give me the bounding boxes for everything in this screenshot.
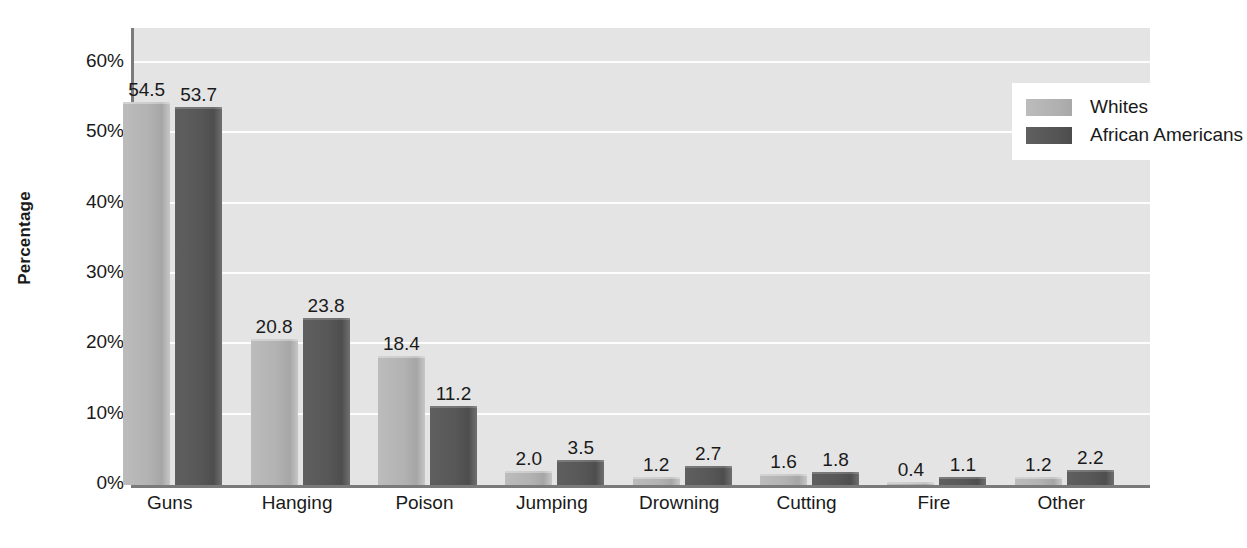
bar-value-label: 1.2: [643, 455, 669, 474]
plot-area: 54.553.720.823.818.411.22.03.51.22.71.61…: [131, 28, 1150, 485]
legend-label: Whites: [1090, 96, 1148, 118]
y-tick-label: 10%: [0, 402, 124, 424]
y-tick-label: 60%: [0, 50, 124, 72]
bar[interactable]: 20.8: [251, 339, 298, 485]
gridline: [134, 202, 1150, 204]
bar[interactable]: 54.5: [123, 102, 170, 485]
bar-value-label: 1.6: [770, 452, 796, 471]
bar-value-label: 1.2: [1025, 455, 1051, 474]
plot-inner: 54.553.720.823.818.411.22.03.51.22.71.61…: [134, 28, 1150, 485]
y-tick-label: 30%: [0, 261, 124, 283]
bar[interactable]: 18.4: [378, 356, 425, 485]
gridline: [134, 131, 1150, 133]
x-tick-label: Hanging: [262, 492, 333, 514]
y-tick-label: 40%: [0, 191, 124, 213]
bar-value-label: 3.5: [568, 438, 594, 457]
bar-value-label: 23.8: [308, 296, 345, 315]
y-tick-label: 0%: [0, 472, 124, 494]
legend-swatch-icon: [1026, 99, 1072, 116]
bar-value-label: 2.2: [1077, 448, 1103, 467]
legend-item[interactable]: African Americans: [1026, 122, 1247, 148]
bar[interactable]: 11.2: [430, 406, 477, 485]
y-axis-tick-labels: 0%10%20%30%40%50%60%: [0, 0, 124, 548]
bar[interactable]: 1.6: [760, 474, 807, 485]
chart-legend: WhitesAfrican Americans: [1012, 83, 1247, 160]
bar[interactable]: 1.2: [1015, 477, 1062, 485]
x-tick-label: Guns: [147, 492, 192, 514]
bar[interactable]: 2.2: [1067, 470, 1114, 485]
x-tick-label: Poison: [395, 492, 453, 514]
bar[interactable]: 53.7: [175, 107, 222, 485]
bar[interactable]: 3.5: [557, 460, 604, 485]
legend-label: African Americans: [1090, 124, 1243, 146]
x-tick-label: Cutting: [776, 492, 836, 514]
y-tick-label: 20%: [0, 331, 124, 353]
x-tick-label: Jumping: [516, 492, 588, 514]
y-tick-label: 50%: [0, 120, 124, 142]
bar[interactable]: 1.8: [812, 472, 859, 485]
bar[interactable]: 1.2: [633, 477, 680, 485]
bar[interactable]: 2.0: [505, 471, 552, 485]
bar[interactable]: 2.7: [685, 466, 732, 485]
gridline: [134, 61, 1150, 63]
x-axis-tick-labels: GunsHangingPoisonJumpingDrowningCuttingF…: [131, 492, 1150, 532]
bar[interactable]: 23.8: [303, 318, 350, 485]
bar-value-label: 1.1: [950, 455, 976, 474]
bar-value-label: 11.2: [436, 384, 472, 403]
bar-value-label: 2.7: [695, 444, 721, 463]
bar-value-label: 2.0: [516, 449, 542, 468]
bar-value-label: 20.8: [256, 317, 293, 336]
x-axis-line: [131, 485, 1150, 488]
bar-value-label: 0.4: [898, 460, 924, 479]
legend-item[interactable]: Whites: [1026, 94, 1247, 120]
bar-value-label: 1.8: [822, 450, 848, 469]
bar[interactable]: 1.1: [939, 477, 986, 485]
x-tick-label: Drowning: [639, 492, 719, 514]
legend-swatch-icon: [1026, 127, 1072, 144]
x-tick-label: Other: [1038, 492, 1086, 514]
bar-value-label: 54.5: [128, 80, 165, 99]
bar-value-label: 53.7: [180, 85, 217, 104]
gridline: [134, 272, 1150, 274]
bar-value-label: 18.4: [383, 334, 420, 353]
x-tick-label: Fire: [918, 492, 951, 514]
